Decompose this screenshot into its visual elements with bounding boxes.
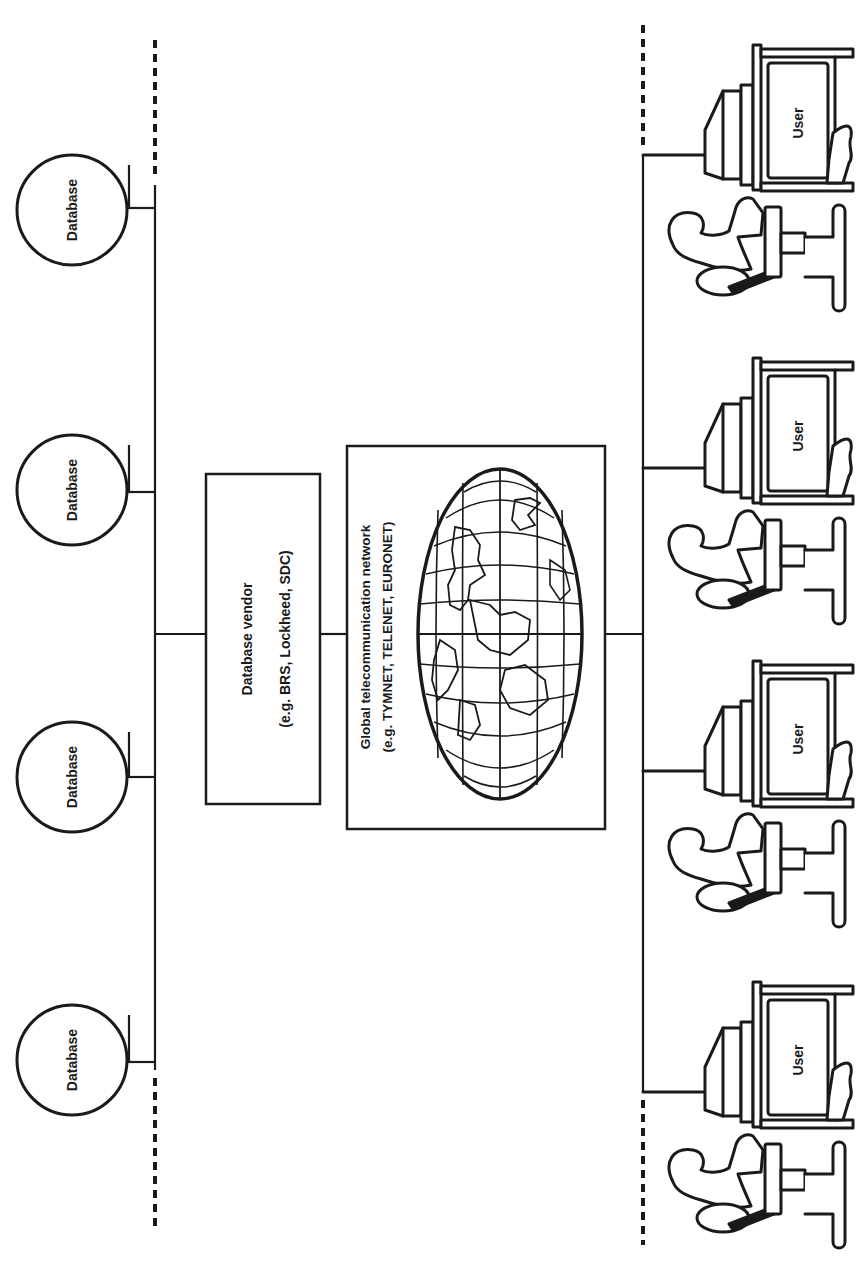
vendor-title: Database vendor: [239, 582, 255, 695]
database-label: Database: [64, 179, 80, 241]
network-examples: (e.g. TYMNET, TELENET, EURONET): [380, 521, 395, 752]
database-label: Database: [64, 459, 80, 521]
user-workstation: User: [643, 982, 853, 1248]
database-node: Database: [17, 435, 155, 545]
user-label: User: [790, 723, 806, 755]
database-node: Database: [17, 722, 155, 832]
database-network-diagram: Database Database Database Database Data…: [0, 0, 864, 1271]
network-title: Global telecommunication network: [358, 524, 373, 749]
database-node: Database: [17, 155, 155, 265]
user-workstation: User: [643, 358, 853, 624]
database-label: Database: [64, 1029, 80, 1091]
database-node: Database: [17, 1005, 155, 1115]
database-label: Database: [64, 746, 80, 808]
database-vendor-box: Database vendor (e.g. BRS, Lockheed, SDC…: [206, 474, 320, 804]
user-workstation: User: [643, 45, 853, 311]
user-label: User: [790, 107, 806, 139]
world-map-icon: [418, 469, 582, 799]
user-label: User: [790, 1044, 806, 1076]
vendor-examples: (e.g. BRS, Lockheed, SDC): [277, 550, 293, 727]
telecom-network-box: Global telecommunication network (e.g. T…: [347, 446, 605, 829]
user-workstation: User: [643, 661, 853, 927]
user-label: User: [790, 420, 806, 452]
